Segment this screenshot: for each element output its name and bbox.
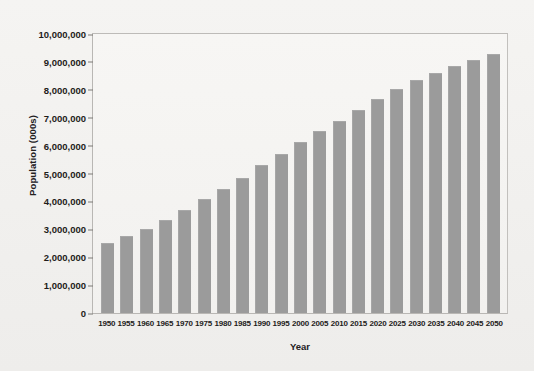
- bar: [275, 154, 288, 313]
- bar: [140, 229, 153, 313]
- bar-slot: [387, 34, 406, 313]
- bar-slot: [368, 34, 387, 313]
- x-axis-tick-label: 2010: [330, 315, 349, 331]
- x-axis-title: Year: [90, 341, 510, 352]
- bar-series: [93, 34, 507, 313]
- x-axis-tick-label: 2035: [426, 315, 445, 331]
- bar-slot: [329, 34, 348, 313]
- bar: [371, 99, 384, 313]
- bar: [255, 165, 268, 313]
- bar-slot: [484, 34, 503, 313]
- x-axis-tick-label: 2015: [349, 315, 368, 331]
- bar: [159, 220, 172, 313]
- bar: [333, 121, 346, 314]
- x-axis-tick-label: 1955: [116, 315, 135, 331]
- x-axis-ticks: 1950195519601965197019751980198519901995…: [92, 315, 508, 331]
- bar-slot: [272, 34, 291, 313]
- y-axis-tick-label: 10,000,000: [38, 29, 93, 40]
- y-axis-tick-label: 7,000,000: [44, 112, 93, 123]
- x-axis-tick-label: 1965: [155, 315, 174, 331]
- plot-area: 10,000,0009,000,0008,000,0007,000,0006,0…: [92, 33, 508, 314]
- bar-slot: [137, 34, 156, 313]
- bar-slot: [407, 34, 426, 313]
- x-axis-tick-label: 1990: [252, 315, 271, 331]
- x-axis-tick-label: 1960: [136, 315, 155, 331]
- x-axis-tick-label: 2050: [485, 315, 504, 331]
- x-axis-tick-label: 2000: [291, 315, 310, 331]
- x-axis-tick-label: 1980: [213, 315, 232, 331]
- bar-slot: [214, 34, 233, 313]
- y-axis-tick-label: 9,000,000: [44, 56, 93, 67]
- y-axis-tick-label: 5,000,000: [44, 168, 93, 179]
- x-axis-tick-label: 1950: [97, 315, 116, 331]
- bar: [101, 243, 114, 313]
- x-axis-tick-label: 2020: [368, 315, 387, 331]
- chart-figure: Population (000s) 10,000,0009,000,0008,0…: [0, 0, 534, 371]
- bar: [410, 80, 423, 313]
- y-axis-tick-label: 4,000,000: [44, 196, 93, 207]
- bar-slot: [445, 34, 464, 313]
- bar: [198, 199, 211, 313]
- bar: [487, 54, 500, 313]
- bar: [178, 210, 191, 313]
- bar-slot: [349, 34, 368, 313]
- bar-slot: [252, 34, 271, 313]
- bar: [120, 236, 133, 313]
- bar: [429, 73, 442, 313]
- y-axis-tick-label: 8,000,000: [44, 84, 93, 95]
- y-axis-tick-label: 3,000,000: [44, 224, 93, 235]
- x-axis-tick-label: 1985: [233, 315, 252, 331]
- x-axis-tick-label: 1975: [194, 315, 213, 331]
- bar-slot: [194, 34, 213, 313]
- x-axis-tick-label: 1995: [271, 315, 290, 331]
- bar-slot: [464, 34, 483, 313]
- x-axis-tick-label: 2030: [407, 315, 426, 331]
- x-axis-tick-label: 2040: [446, 315, 465, 331]
- bar-slot: [175, 34, 194, 313]
- x-axis-tick-label: 2005: [310, 315, 329, 331]
- bar: [352, 110, 365, 313]
- x-axis-tick-label: 2025: [388, 315, 407, 331]
- bar-slot: [426, 34, 445, 313]
- bar-slot: [117, 34, 136, 313]
- y-axis-tick-label: 6,000,000: [44, 140, 93, 151]
- bar-slot: [310, 34, 329, 313]
- bar-slot: [156, 34, 175, 313]
- x-axis-tick-label: 2045: [465, 315, 484, 331]
- bar: [390, 89, 403, 313]
- bar: [294, 142, 307, 313]
- bar: [467, 60, 480, 313]
- bar: [448, 66, 461, 313]
- bar: [236, 178, 249, 313]
- bar: [313, 131, 326, 313]
- bar: [217, 189, 230, 313]
- y-axis-tick-label: 2,000,000: [44, 252, 93, 263]
- bar-slot: [291, 34, 310, 313]
- bar-slot: [98, 34, 117, 313]
- bar-slot: [233, 34, 252, 313]
- x-axis-tick-label: 1970: [175, 315, 194, 331]
- y-axis-tick-label: 1,000,000: [44, 280, 93, 291]
- y-axis-title: Population (000s): [27, 86, 38, 226]
